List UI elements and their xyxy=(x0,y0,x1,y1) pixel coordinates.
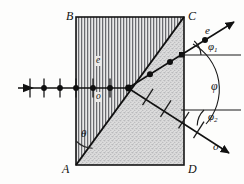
corner-label-D: D xyxy=(188,163,197,175)
corner-label-C: C xyxy=(188,10,196,22)
corner-label-B: B xyxy=(66,10,73,22)
angle-label-phi2: φ2 xyxy=(208,111,218,122)
angle-label-phi: φ xyxy=(211,80,218,92)
inner-label-o: o xyxy=(95,92,102,102)
figure-canvas: B C A D e o e o θ φ1 φ φ2 xyxy=(0,0,244,184)
corner-label-A: A xyxy=(62,163,69,175)
beam-split-point xyxy=(125,85,132,92)
phi2-subscript: 2 xyxy=(214,116,218,124)
angle-label-theta: θ xyxy=(81,128,86,139)
inner-label-e: e xyxy=(95,56,101,66)
exit-label-e: e xyxy=(205,25,210,36)
phi-symbol: φ xyxy=(211,79,218,93)
phi1-subscript: 1 xyxy=(214,46,218,54)
angle-label-phi1: φ1 xyxy=(208,41,218,52)
exit-label-o: o xyxy=(213,141,219,152)
incident-ray-arrowhead xyxy=(23,84,34,92)
